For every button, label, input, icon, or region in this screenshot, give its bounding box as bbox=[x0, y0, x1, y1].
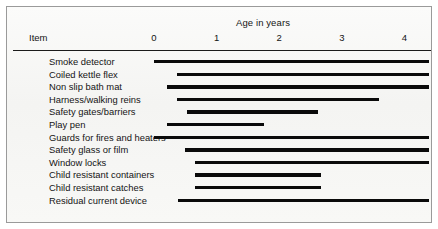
range-bar bbox=[167, 85, 430, 88]
range-bar bbox=[177, 73, 429, 76]
item-column-header: Item bbox=[29, 32, 47, 43]
range-bar bbox=[195, 173, 320, 176]
row-label: Safety gates/barriers bbox=[49, 106, 136, 119]
chart-row: Coiled kettle flex bbox=[7, 69, 433, 82]
x-tick-label-1: 1 bbox=[202, 32, 232, 43]
range-bar bbox=[185, 148, 429, 151]
chart-header-row: Item 01234 bbox=[7, 32, 433, 47]
chart-row: Window locks bbox=[7, 157, 433, 170]
axis-title: Age in years bbox=[7, 17, 433, 28]
range-bar bbox=[167, 123, 264, 126]
chart-row: Guards for fires and heaters bbox=[7, 132, 433, 145]
row-label: Safety glass or film bbox=[49, 144, 128, 157]
range-bar bbox=[154, 136, 429, 139]
chart-rows: Smoke detectorCoiled kettle flexNon slip… bbox=[7, 56, 433, 207]
chart-row: Safety glass or film bbox=[7, 144, 433, 157]
range-bar bbox=[187, 110, 318, 113]
range-bar bbox=[177, 98, 379, 101]
chart-row: Safety gates/barriers bbox=[7, 106, 433, 119]
chart-row: Child resistant catches bbox=[7, 182, 433, 195]
row-label: Window locks bbox=[49, 157, 106, 170]
x-tick-label-3: 3 bbox=[327, 32, 357, 43]
row-label: Play pen bbox=[49, 119, 85, 132]
row-label: Non slip bath mat bbox=[49, 81, 122, 94]
header-rule bbox=[13, 50, 431, 51]
x-tick-label-2: 2 bbox=[264, 32, 294, 43]
row-label: Child resistant catches bbox=[49, 182, 143, 195]
chart-frame: Age in years Item 01234 Smoke detectorCo… bbox=[6, 6, 432, 223]
row-label: Child resistant containers bbox=[49, 169, 154, 182]
row-label: Residual current device bbox=[49, 195, 147, 208]
row-label: Coiled kettle flex bbox=[49, 69, 118, 82]
x-tick-label-4: 4 bbox=[389, 32, 419, 43]
chart-row: Smoke detector bbox=[7, 56, 433, 69]
range-bar bbox=[178, 199, 429, 202]
range-bar bbox=[195, 186, 320, 189]
chart-row: Harness/walking reins bbox=[7, 94, 433, 107]
chart-row: Child resistant containers bbox=[7, 169, 433, 182]
range-bar bbox=[195, 161, 429, 164]
row-label: Smoke detector bbox=[49, 56, 115, 69]
x-tick-label-0: 0 bbox=[139, 32, 169, 43]
range-bar bbox=[154, 60, 429, 63]
row-label: Guards for fires and heaters bbox=[49, 132, 166, 145]
chart-row: Play pen bbox=[7, 119, 433, 132]
chart-inner: Age in years Item 01234 Smoke detectorCo… bbox=[7, 7, 431, 222]
chart-row: Residual current device bbox=[7, 195, 433, 208]
chart-row: Non slip bath mat bbox=[7, 81, 433, 94]
row-label: Harness/walking reins bbox=[49, 94, 141, 107]
